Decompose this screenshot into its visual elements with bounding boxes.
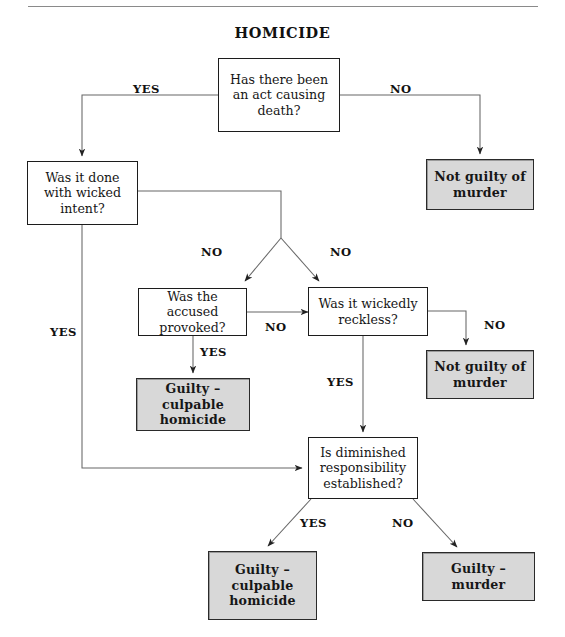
edge-intent-no-left (245, 238, 281, 281)
node-not-guilty-of-murder-2[interactable]: Not guilty of murder (426, 350, 534, 399)
edge-reckless-no (428, 311, 466, 345)
edge-intent-no-right (281, 238, 319, 281)
node-is-diminished-responsibility-established[interactable]: Is diminished responsibility established… (308, 437, 418, 499)
edge-label-no-reckless: NO (484, 318, 506, 332)
edge-intent-yes (82, 225, 302, 468)
node-has-there-been-an-act-causing-death[interactable]: Has there been an act causing death? (218, 58, 340, 132)
node-label: Was it done with wicked intent? (39, 170, 126, 216)
node-guilty-culpable-homicide-1[interactable]: Guilty – culpable homicide (136, 378, 250, 431)
node-label: Was it wickedly reckless? (313, 296, 422, 327)
node-was-it-done-with-wicked-intent[interactable]: Was it done with wicked intent? (27, 161, 138, 225)
node-label: Was the accused provoked? (139, 289, 246, 335)
node-label: Guilty – culpable homicide (155, 381, 232, 427)
edge-intent-no-stem (138, 191, 281, 238)
flowchart-page: HOMICIDE (0, 0, 565, 637)
edge-label-no-act: NO (390, 82, 412, 96)
page-title: HOMICIDE (0, 24, 565, 41)
edge-diminished-no (413, 499, 457, 547)
node-guilty-murder[interactable]: Guilty – murder (422, 552, 535, 601)
node-label: Guilty – culpable homicide (224, 562, 301, 608)
edge-act-no (340, 95, 480, 154)
edge-act-yes (82, 95, 218, 156)
node-label: Not guilty of murder (429, 359, 531, 390)
edge-label-no-intent-left: NO (201, 245, 223, 259)
node-label: Is diminished responsibility established… (315, 445, 412, 491)
node-not-guilty-of-murder-1[interactable]: Not guilty of murder (426, 159, 534, 210)
node-label: Has there been an act causing death? (225, 72, 333, 118)
edge-label-no-intent-right: NO (330, 245, 352, 259)
node-guilty-culpable-homicide-2[interactable]: Guilty – culpable homicide (208, 551, 317, 620)
edge-label-no-diminished: NO (392, 516, 414, 530)
edge-label-yes-intent: YES (50, 325, 77, 339)
edge-label-yes-act: YES (133, 82, 160, 96)
node-was-the-accused-provoked[interactable]: Was the accused provoked? (138, 288, 247, 336)
edge-label-yes-reckless: YES (327, 375, 354, 389)
page-top-rule (28, 6, 538, 7)
edge-label-yes-diminished: YES (300, 516, 327, 530)
node-label: Guilty – murder (446, 561, 511, 592)
edge-label-no-provoked: NO (265, 320, 287, 334)
node-was-it-wickedly-reckless[interactable]: Was it wickedly reckless? (308, 287, 428, 336)
node-label: Not guilty of murder (429, 169, 531, 200)
edge-label-yes-provoked: YES (200, 345, 227, 359)
